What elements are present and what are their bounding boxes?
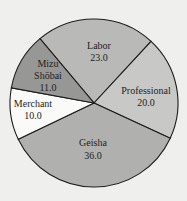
label-name: Geisha [79, 137, 107, 148]
label-value: 10.0 [24, 110, 42, 121]
label-name: Merchant [14, 98, 53, 109]
label-value: 36.0 [84, 150, 102, 161]
label-value: 20.0 [137, 97, 155, 108]
pie-chart: Labor 23.0 Professional 20.0 Geisha 36.0… [0, 0, 187, 201]
label-value: 11.0 [39, 82, 56, 93]
label-value: 23.0 [90, 52, 108, 63]
label-name: Professional [121, 85, 171, 96]
label-name-line2: Shōbai [34, 70, 62, 81]
label-name: Labor [87, 40, 112, 51]
label-name-line1: Mizu [37, 58, 58, 69]
